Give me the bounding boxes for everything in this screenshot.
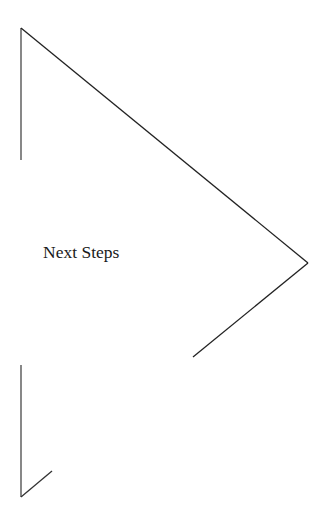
top-diagonal-edge — [21, 28, 308, 263]
next-steps-label: Next Steps — [43, 244, 119, 262]
diagram-canvas: Next Steps — [0, 0, 328, 525]
bottom-diagonal-edge-lower — [21, 471, 52, 497]
arrow-shape-outline — [0, 0, 328, 525]
bottom-diagonal-edge-upper — [193, 263, 308, 357]
